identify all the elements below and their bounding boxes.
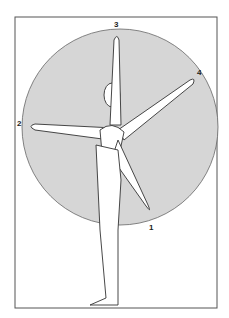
figure-illustration [0, 0, 229, 318]
label-1: 1 [149, 223, 153, 232]
label-2: 2 [17, 119, 21, 128]
label-4: 4 [197, 68, 201, 77]
label-3: 3 [114, 20, 118, 29]
